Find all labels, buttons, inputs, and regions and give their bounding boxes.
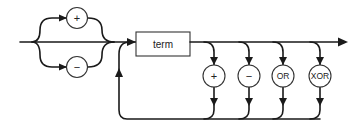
- term-label: term: [153, 39, 173, 50]
- operator-plus-node: +: [203, 65, 225, 87]
- syntax-diagram: + − term: [0, 0, 353, 132]
- sign-plus-node: +: [67, 8, 88, 29]
- arrow-down-icon: [316, 98, 324, 106]
- arrow-down-icon: [279, 57, 287, 65]
- sign-minus-node: −: [67, 57, 88, 78]
- upper-branch-exit: [88, 18, 114, 42]
- upper-branch-path: [32, 18, 66, 42]
- arrow-down-icon: [279, 98, 287, 106]
- lower-branch-path: [32, 42, 66, 67]
- operator-xor-node: XOR: [309, 65, 331, 87]
- arrow-right-icon: [59, 64, 67, 71]
- operator-or-label: OR: [277, 71, 290, 81]
- arrow-down-icon: [210, 98, 218, 106]
- operator-minus-node: −: [238, 65, 260, 87]
- arrow-down-icon: [245, 98, 253, 106]
- operator-xor-label: XOR: [311, 71, 329, 81]
- sign-minus-label: −: [74, 61, 80, 73]
- arrow-down-icon: [245, 57, 253, 65]
- arrow-down-icon: [210, 57, 218, 65]
- arrow-up-icon: [115, 68, 123, 77]
- arrow-down-icon: [316, 57, 324, 65]
- term-node: term: [136, 32, 190, 56]
- arrow-right-icon: [59, 15, 67, 22]
- operator-minus-label: −: [246, 70, 252, 82]
- operator-plus-label: +: [211, 70, 217, 82]
- sign-plus-label: +: [74, 12, 80, 24]
- arrow-right-icon: [338, 38, 348, 47]
- lower-branch-exit: [88, 42, 114, 67]
- operator-branches: + − OR XOR: [203, 42, 331, 119]
- operator-or-node: OR: [272, 65, 294, 87]
